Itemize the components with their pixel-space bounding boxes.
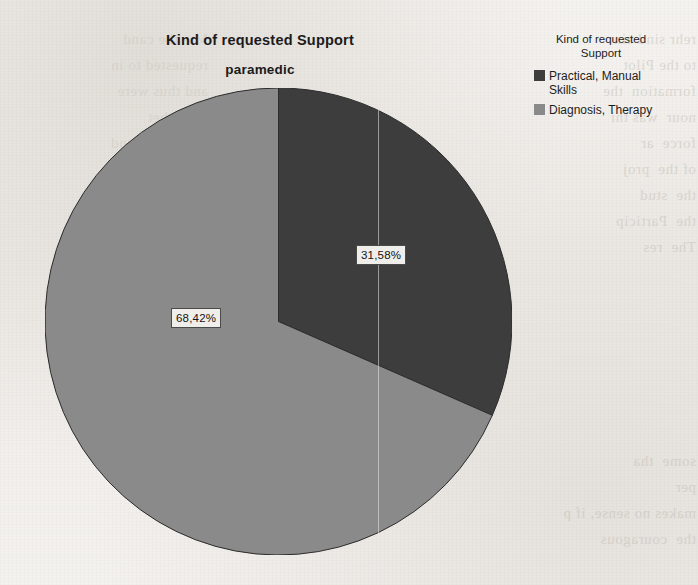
pie-chart: Kind of requested Support paramedic 31,5… [0,0,698,585]
legend-swatch-icon-diagnosis-therapy [534,104,545,115]
slice-value-label-diagnosis-therapy: 68,42% [171,308,221,328]
legend-item-practical-manual-skills[interactable]: Practical, Manual Skills [534,69,690,97]
chart-title: Kind of requested Support [0,32,520,48]
legend-label-practical-manual-skills: Practical, Manual Skills [549,69,641,97]
legend-label-diagnosis-therapy: Diagnosis, Therapy [549,103,652,117]
legend-title: Kind of requested Support [538,33,664,60]
pie-svg [45,88,512,555]
slice-value-label-practical-manual-skills: 31,58% [356,245,406,265]
legend-swatch-icon-practical-manual-skills [534,70,545,81]
legend-item-diagnosis-therapy[interactable]: Diagnosis, Therapy [534,103,690,117]
chart-legend: Kind of requested Support Practical, Man… [534,33,690,123]
pie-plot-area [45,88,512,555]
chart-subtitle: paramedic [0,62,520,77]
